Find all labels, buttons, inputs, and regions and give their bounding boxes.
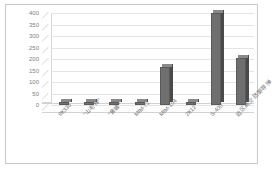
gridline-depth-edge bbox=[42, 46, 49, 53]
bar-top bbox=[213, 10, 223, 13]
gridline-depth-edge bbox=[42, 81, 49, 88]
y-tick-label: 0 bbox=[9, 102, 39, 108]
bar[interactable] bbox=[160, 64, 170, 105]
bar-face bbox=[211, 13, 221, 105]
gridline-depth-edge bbox=[42, 23, 49, 30]
y-tick-label: 50 bbox=[9, 91, 39, 97]
bar-top bbox=[61, 99, 71, 102]
bar-top bbox=[238, 55, 248, 58]
gridline-depth-edge bbox=[42, 92, 49, 99]
x-axis-labels: 9К330"山毛榉""黄蜂"MIM-72MIM-1042К12S-400远区高空… bbox=[46, 113, 261, 170]
gridline-depth-edge bbox=[42, 69, 49, 76]
y-tick-label: 150 bbox=[9, 68, 39, 74]
y-tick-label: 100 bbox=[9, 79, 39, 85]
bar-top bbox=[188, 99, 198, 102]
bar[interactable] bbox=[211, 10, 221, 105]
y-tick-label: 350 bbox=[9, 22, 39, 28]
bar-side bbox=[246, 55, 249, 102]
bar-top bbox=[111, 99, 121, 102]
bar-series bbox=[51, 13, 254, 105]
bar[interactable] bbox=[186, 99, 196, 105]
y-tick-label: 300 bbox=[9, 33, 39, 39]
gridline-depth-edge bbox=[42, 35, 49, 42]
gridline-depth-edge bbox=[42, 12, 49, 19]
bar-face bbox=[236, 58, 246, 105]
bar[interactable] bbox=[236, 55, 246, 105]
y-tick-label: 200 bbox=[9, 56, 39, 62]
bar-face bbox=[160, 67, 170, 105]
gridline-depth-edge bbox=[42, 58, 49, 65]
bar-side bbox=[221, 10, 224, 102]
chart-frame: 050100150200250300350400 9К330"山毛榉""黄蜂"M… bbox=[5, 4, 258, 164]
bar-top bbox=[162, 64, 172, 67]
y-tick-label: 250 bbox=[9, 45, 39, 51]
y-axis: 050100150200250300350400 bbox=[6, 13, 42, 113]
y-tick-label: 400 bbox=[9, 10, 39, 16]
